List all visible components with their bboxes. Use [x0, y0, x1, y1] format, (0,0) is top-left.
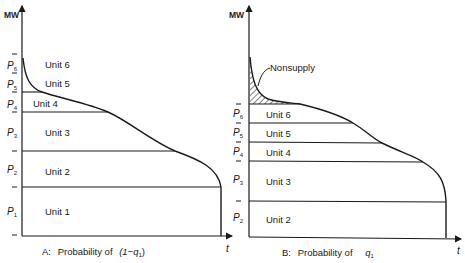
svg-text:P3: P3 — [7, 127, 18, 139]
p-labels-a: P6 P5 P4 P3 P2 P1 — [7, 60, 18, 218]
panel-a: MW t P6 P5 P4 P3 P2 P1 — [4, 6, 232, 258]
unit-1-label-a: Unit 1 — [45, 206, 70, 217]
x-axis-label-a: t — [226, 243, 230, 254]
unit-5-label-b: Unit 5 — [266, 128, 291, 139]
svg-text:P1: P1 — [7, 206, 18, 218]
nonsupply-leader — [258, 68, 270, 86]
unit-labels-b: Unit 6 Unit 5 Unit 4 Unit 3 Unit 2 — [266, 109, 291, 225]
unit-6-label-a: Unit 6 — [45, 59, 70, 70]
svg-text:P4: P4 — [233, 146, 244, 158]
nonsupply-label: Nonsupply — [270, 62, 315, 73]
svg-text:P3: P3 — [233, 174, 244, 186]
unit-3-label-a: Unit 3 — [45, 127, 70, 138]
x-axis-b — [249, 237, 461, 239]
caption-b: B: Probability of q1 — [282, 247, 374, 259]
svg-text:P2: P2 — [233, 212, 244, 224]
unit-2-label-a: Unit 2 — [45, 166, 70, 177]
svg-text:P5: P5 — [7, 79, 18, 91]
svg-text:P5: P5 — [233, 127, 244, 139]
svg-text:P4: P4 — [7, 99, 18, 111]
y-axis-label-b: MW — [229, 10, 245, 20]
unit-4-label-b: Unit 4 — [266, 147, 291, 158]
figure: MW t P6 P5 P4 P3 P2 P1 — [0, 0, 465, 263]
unit-6-label-b: Unit 6 — [266, 109, 291, 120]
svg-text:P6: P6 — [7, 60, 18, 72]
unit-5-label-a: Unit 5 — [45, 78, 70, 89]
unit-3-label-b: Unit 3 — [266, 176, 291, 187]
svg-text:P6: P6 — [233, 108, 244, 120]
caption-a: A: Probability of (1−q1) — [42, 246, 145, 258]
unit-2-label-b: Unit 2 — [266, 214, 291, 225]
unit-labels-a: Unit 6 Unit 5 Unit 4 Unit 3 Unit 2 Unit … — [33, 59, 70, 217]
panel-b: MW t Nonsupply P6 P5 P4 P3 — [229, 6, 461, 259]
unit-4-label-a: Unit 4 — [33, 98, 58, 109]
svg-text:P2: P2 — [7, 164, 18, 176]
p-labels-b: P6 P5 P4 P3 P2 — [233, 108, 244, 224]
x-axis-label-b: t — [457, 245, 461, 256]
y-axis-label-a: MW — [4, 10, 20, 20]
